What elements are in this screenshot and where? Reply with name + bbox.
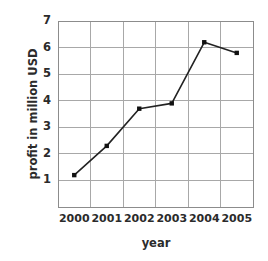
data-point-marker — [72, 173, 76, 177]
line-chart: profit in million USD year 1234567 20002… — [0, 0, 268, 261]
y-tick-label: 1 — [31, 174, 51, 186]
y-tick-label: 7 — [31, 15, 51, 27]
data-point-marker — [170, 101, 174, 105]
y-tick-label: 5 — [31, 68, 51, 80]
data-point-marker — [202, 40, 206, 44]
x-tick-label: 2003 — [155, 213, 189, 224]
x-tick-label: 2000 — [57, 213, 91, 224]
y-tick-label: 2 — [31, 148, 51, 160]
x-tick-label: 2002 — [122, 213, 156, 224]
x-tick-label: 2005 — [220, 213, 254, 224]
y-tick-label: 3 — [31, 121, 51, 133]
x-tick-label: 2004 — [187, 213, 221, 224]
data-point-marker — [137, 106, 141, 110]
y-tick-label: 4 — [31, 95, 51, 107]
data-point-marker — [235, 51, 239, 55]
x-tick-label: 2001 — [90, 213, 124, 224]
data-point-marker — [105, 144, 109, 148]
y-tick-label: 6 — [31, 42, 51, 54]
